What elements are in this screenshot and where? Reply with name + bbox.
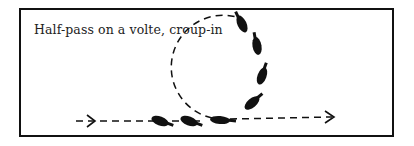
volte-path: [171, 15, 240, 118]
horse-figure-icon: [179, 114, 204, 130]
horse-figure-icon: [250, 31, 263, 55]
horse-figure-icon: [232, 9, 250, 34]
exit-path: [230, 117, 332, 119]
volte-diagram: [0, 0, 414, 146]
horse-figure-icon: [255, 61, 271, 86]
horse-figure-icon: [150, 114, 175, 130]
horse-figure-icon: [210, 115, 237, 125]
horse-figure-icon: [242, 91, 265, 113]
